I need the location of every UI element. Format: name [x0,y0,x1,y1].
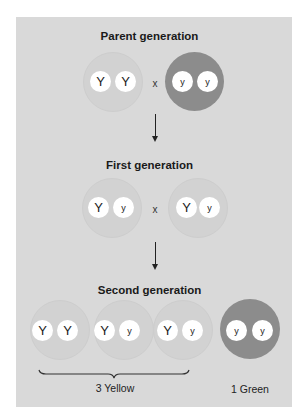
allele: Y [57,320,78,341]
allele: y [226,320,247,341]
first-generation-title: First generation [0,159,299,171]
yellow-count-label: 3 Yellow [96,382,135,394]
allele: y [252,320,273,341]
allele: Y [90,71,111,92]
allele: y [119,320,140,341]
arrow-down-icon [155,114,156,140]
allele: Y [88,197,109,218]
parent-generation-title: Parent generation [0,30,299,42]
allele: y [197,71,218,92]
green-count-label: 1 Green [231,383,269,395]
allele: Y [157,320,178,341]
allele: y [113,197,134,218]
allele: Y [32,320,53,341]
allele: Y [115,71,136,92]
allele: y [182,320,203,341]
allele: Y [176,197,197,218]
cross-symbol: x [153,78,158,89]
brace-icon [38,368,190,380]
allele: Y [94,320,115,341]
second-generation-title: Second generation [0,284,299,296]
allele: y [199,197,220,218]
allele: y [172,71,193,92]
cross-symbol: x [153,204,158,215]
arrow-down-icon [155,242,156,268]
